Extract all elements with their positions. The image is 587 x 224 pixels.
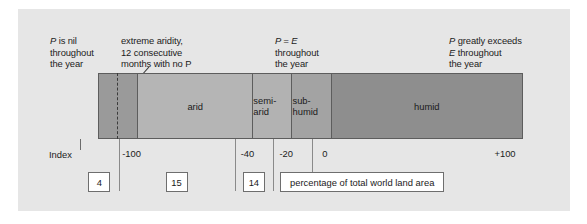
value-box-4: 4 — [88, 172, 110, 192]
annotation-line: the year — [50, 58, 94, 70]
annotation-p-greatly-exceeds-e: P greatly exceeds E throughout the year — [449, 35, 522, 70]
climate-aridity-index-figure: P is nil throughout the year extreme ari… — [0, 0, 587, 224]
axis-tick--40 — [235, 139, 236, 191]
axis-tick-label-+100: +100 — [494, 148, 515, 159]
axis-tick-bar-start — [80, 139, 81, 150]
value-box-14: 14 — [243, 172, 265, 192]
annotation-line: 12 consecutive — [121, 47, 191, 59]
value-box-15: 15 — [166, 172, 188, 192]
value-box-text: 4 — [97, 177, 102, 188]
annotation-line: throughout — [50, 47, 94, 59]
axis-tick-label--40: -40 — [241, 148, 255, 159]
annotation-line: the year — [275, 58, 319, 70]
annotation-line: months with no P — [121, 58, 191, 70]
band-label: arid — [187, 101, 203, 112]
axis-name-label: Index — [49, 149, 72, 160]
value-box-text: 15 — [171, 177, 181, 188]
annotation-p-is-nil: P is nil throughout the year — [50, 35, 94, 70]
annotation-line: extreme aridity, — [121, 35, 191, 47]
band-semi-arid: semi-arid — [253, 74, 292, 138]
axis-tick-label-0: 0 — [322, 148, 327, 159]
axis-tick--20 — [273, 139, 274, 191]
figure-panel: P is nil throughout the year extreme ari… — [18, 9, 570, 211]
annotation-line: P greatly exceeds — [449, 35, 522, 47]
band-sub-humid: sub-humid — [292, 74, 331, 138]
band-label: humid — [414, 101, 440, 112]
axis-tick-label--20: -20 — [279, 148, 293, 159]
band-label: sub-humid — [292, 95, 330, 117]
annotation-symbol-p-equals-e: P = E — [275, 35, 297, 46]
axis-tick--100 — [119, 139, 120, 191]
band-arid: arid — [138, 74, 253, 138]
band-label: semi-arid — [253, 95, 291, 117]
annotation-line: E throughout — [449, 47, 522, 59]
annotation-line: P = E — [275, 35, 319, 47]
annotation-text: greatly exceeds — [455, 35, 522, 46]
annotation-text: throughout — [455, 47, 501, 58]
annotation-line: throughout — [275, 47, 319, 59]
annotation-extreme-aridity: extreme aridity, 12 consecutive months w… — [121, 35, 191, 70]
annotation-line: P is nil — [50, 35, 94, 47]
dashed-marker-minus-100 — [117, 73, 118, 139]
band-humid: humid — [332, 74, 522, 138]
annotation-line: the year — [449, 58, 522, 70]
aridity-band-bar: aridsemi-aridsub-humidhumid — [98, 73, 523, 139]
axis-tick-label--100: -100 — [122, 148, 141, 159]
annotation-text: is nil — [56, 35, 77, 46]
legend-caption-text: percentage of total world land area — [290, 177, 434, 188]
legend-caption-box: percentage of total world land area — [280, 172, 444, 192]
band-hyper-arid — [99, 74, 138, 138]
annotation-p-equals-e: P = E throughout the year — [275, 35, 319, 70]
value-box-text: 14 — [249, 177, 259, 188]
